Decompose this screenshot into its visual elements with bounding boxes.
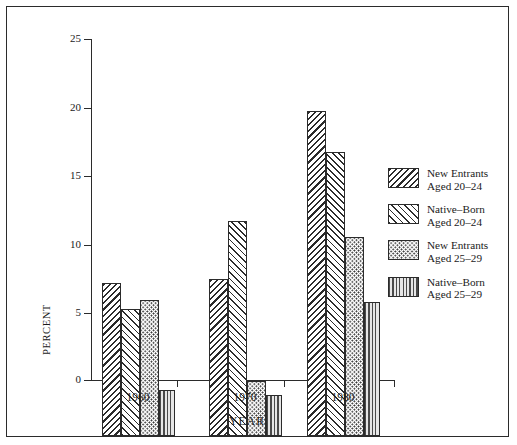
bar-1970-new-entrants-25-29 [247,381,266,436]
y-tick-15 [84,176,91,177]
legend-label-line2: Aged 25–29 [427,252,488,265]
x-tick-label-1970: 1970 [215,391,275,403]
y-tick-20 [84,108,91,109]
y-tick-label-5: 5 [51,307,81,318]
y-axis-line [91,39,92,381]
x-tick-label-1960: 1960 [108,391,168,403]
legend-swatch-cross-hatch-icon [388,204,419,224]
y-axis-title-host: PERCENT [47,175,61,295]
bar-group-1980 [307,92,380,436]
y-tick-label-20-wrap: 20 [47,102,81,113]
y-tick-10 [84,245,91,246]
y-tick-label-0: 0 [51,374,81,385]
y-tick-label-20: 20 [51,102,81,113]
legend-swatch-vertical-lines-icon [388,277,419,297]
legend-label-line1: Native–Born [427,276,485,289]
y-tick-0 [84,380,91,381]
legend-label-line2: Aged 20–24 [427,216,485,229]
y-axis-title: PERCENT [41,304,52,355]
bar-1970-native-born-20-24 [228,221,247,437]
legend-label-line2: Aged 20–24 [427,180,488,193]
legend-label-line1: New Entrants [427,167,488,180]
y-tick-label-0-wrap: 0 [47,374,81,385]
bar-1980-new-entrants-25-29 [345,237,364,436]
legend-label-line1: Native–Born [427,203,485,216]
legend-label-line1: New Entrants [427,239,488,252]
bar-group-1960 [102,92,175,436]
bar-1980-native-born-25-29 [364,302,380,436]
bar-group-1970 [209,92,282,436]
y-tick-label-25-wrap: 25 [47,33,81,44]
x-axis-title: YEAR [157,415,337,427]
x-tick-label-1980: 1980 [313,391,373,403]
bar-1980-new-entrants-20-24 [307,111,326,436]
y-tick-label-25: 25 [51,33,81,44]
x-tick-minor-1 [177,381,178,387]
bar-1970-new-entrants-20-24 [209,279,228,436]
x-tick-end [394,381,395,387]
legend-item-native-born-20-24: Native–Born Aged 20–24 [388,203,517,228]
legend-label-native-born-20-24: Native–Born Aged 20–24 [427,203,485,228]
y-tick-5 [84,313,91,314]
x-tick-minor-2 [284,381,285,387]
legend: New Entrants Aged 20–24 Native–Born Aged… [388,167,517,312]
chart-figure: 25 20 15 10 5 0 PERCENT [0,0,517,445]
bar-1960-new-entrants-20-24 [102,283,121,436]
legend-label-line2: Aged 25–29 [427,288,485,301]
legend-label-native-born-25-29: Native–Born Aged 25–29 [427,276,485,301]
legend-item-new-entrants-25-29: New Entrants Aged 25–29 [388,239,517,264]
legend-swatch-dotted-icon [388,240,419,260]
legend-item-native-born-25-29: Native–Born Aged 25–29 [388,276,517,301]
legend-item-new-entrants-20-24: New Entrants Aged 20–24 [388,167,517,192]
y-tick-label-5-wrap: 5 [47,307,81,318]
legend-label-new-entrants-20-24: New Entrants Aged 20–24 [427,167,488,192]
y-tick-25 [84,39,91,40]
legend-swatch-diagonal-hatch-icon [388,168,419,188]
legend-label-new-entrants-25-29: New Entrants Aged 25–29 [427,239,488,264]
bar-1960-native-born-20-24 [121,309,140,436]
figure-border: 25 20 15 10 5 0 PERCENT [6,6,509,437]
